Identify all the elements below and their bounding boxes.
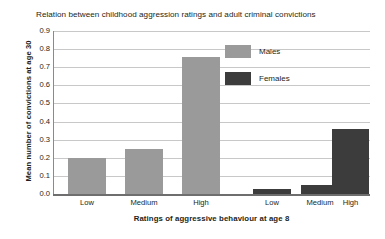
y-axis-tick-label: 0.8: [28, 45, 50, 53]
chart-figure: Relation between childhood aggression ra…: [0, 0, 385, 239]
x-axis-tick-label: Medium: [125, 198, 163, 208]
y-axis-tick-label: 0.7: [28, 63, 50, 71]
bar-males-medium: [125, 149, 163, 194]
y-axis-tick-label: 0.6: [28, 81, 50, 89]
x-axis-tick-label: High: [332, 198, 369, 208]
chart-legend: Males Females: [225, 44, 335, 98]
legend-item-females: Females: [225, 71, 335, 91]
x-axis-line: [53, 194, 370, 196]
y-axis-tick-label: 0.2: [28, 154, 50, 162]
y-axis-line: [53, 31, 54, 195]
x-axis-title: Ratings of aggressive behaviour at age 8: [53, 214, 370, 223]
legend-item-males: Males: [225, 44, 335, 64]
legend-label-females: Females: [259, 72, 290, 85]
x-axis-tick-label: High: [182, 198, 220, 208]
y-axis-tick-labels: 0.90.80.70.60.50.40.30.20.10.0: [26, 31, 50, 195]
y-axis-tick-label: 0.5: [28, 99, 50, 107]
y-axis-tick-label: 0.0: [28, 190, 50, 198]
x-axis-tick-label: Low: [68, 198, 106, 208]
bar-males-low: [68, 158, 106, 194]
y-axis-tick-label: 0.9: [28, 27, 50, 35]
legend-swatch-males-icon: [225, 45, 251, 58]
gridline: [53, 31, 370, 32]
legend-label-males: Males: [259, 45, 280, 58]
x-axis-tick-labels: LowMediumHighLowMediumHigh: [53, 198, 370, 210]
y-axis-tick-label: 0.4: [28, 118, 50, 126]
bar-females-high: [332, 129, 369, 194]
y-axis-tick-label: 0.1: [28, 172, 50, 180]
legend-swatch-females-icon: [225, 72, 251, 85]
x-axis-tick-label: Low: [253, 198, 291, 208]
y-axis-tick-label: 0.3: [28, 136, 50, 144]
chart-title: Relation between childhood aggression ra…: [36, 9, 366, 20]
bar-males-high: [182, 57, 220, 194]
